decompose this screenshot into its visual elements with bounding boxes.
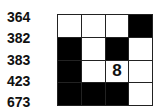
grid-cell[interactable]: [82, 61, 105, 83]
grid-cell[interactable]: [129, 83, 152, 105]
black-cell: [58, 38, 81, 60]
grid-cell[interactable]: [58, 15, 81, 37]
grid-cell[interactable]: [129, 38, 152, 60]
grid-cell[interactable]: 8: [106, 61, 129, 83]
clue-4: 423: [7, 74, 30, 88]
black-cell: [58, 83, 81, 105]
black-cell: [106, 83, 129, 105]
grid-cell[interactable]: [129, 61, 152, 83]
black-cell: [129, 15, 152, 37]
grid-cell[interactable]: [82, 15, 105, 37]
grid-cell[interactable]: [82, 38, 105, 60]
black-cell: [82, 83, 105, 105]
black-cell: [58, 61, 81, 83]
puzzle-grid: 8: [57, 14, 153, 106]
black-cell: [106, 38, 129, 60]
grid-cell[interactable]: [106, 15, 129, 37]
clue-3: 383: [7, 53, 30, 67]
clue-2: 382: [7, 31, 30, 45]
clue-1: 364: [7, 10, 30, 24]
clue-5: 673: [7, 95, 30, 109]
